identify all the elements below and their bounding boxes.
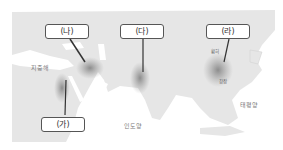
label-ra: (라) [206, 24, 250, 39]
japan [250, 50, 262, 64]
region-ra [203, 53, 233, 87]
ancient-civilizations-map: (가) (나) (다) (라) 지중해 인도양 태평양 황허 창장 [0, 0, 283, 150]
label-da: (다) [120, 24, 164, 39]
sea-label-pacific: 태평양 [240, 100, 258, 109]
islands [200, 126, 245, 136]
region-na [76, 57, 104, 79]
sea-label-mediterranean: 지중해 [31, 63, 49, 72]
river-label-changjiang: 창장 [219, 78, 227, 84]
river-label-huanghe: 황허 [211, 48, 219, 54]
label-ga: (가) [41, 117, 85, 132]
region-ga [54, 73, 70, 103]
region-da [130, 62, 150, 94]
sea-label-indian-ocean: 인도양 [124, 121, 142, 130]
label-na: (나) [45, 24, 89, 39]
